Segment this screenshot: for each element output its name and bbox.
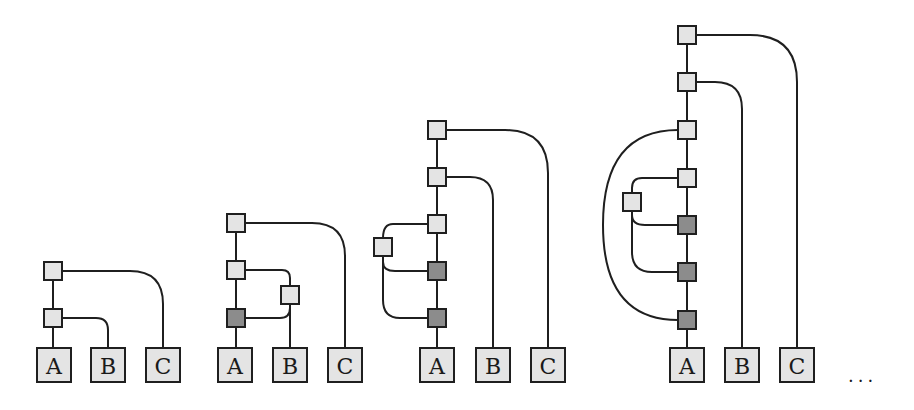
dark-node: [428, 309, 446, 327]
light-node: [227, 261, 245, 279]
dark-node: [428, 262, 446, 280]
leaf-label: B: [485, 354, 501, 379]
edge: [245, 270, 290, 348]
dark-node: [678, 216, 696, 234]
light-node: [374, 238, 392, 256]
light-node: [623, 193, 641, 211]
leaf-c: C: [146, 348, 180, 382]
light-node: [281, 286, 299, 304]
diagram-canvas: ABCABCABCABC: [0, 0, 914, 410]
leaf-label: A: [678, 354, 696, 379]
tree-diagram-1: ABC: [37, 262, 180, 382]
leaf-label: B: [100, 354, 116, 379]
leaf-b: B: [476, 348, 510, 382]
light-node: [44, 262, 62, 280]
light-node: [678, 121, 696, 139]
edge: [696, 82, 742, 348]
light-node: [678, 73, 696, 91]
leaf-b: B: [91, 348, 125, 382]
leaf-label: C: [337, 354, 354, 379]
tree-diagram-4: ABC: [603, 26, 814, 382]
edge: [632, 211, 678, 272]
edge: [62, 271, 163, 348]
leaf-a: A: [37, 348, 71, 382]
leaf-b: B: [725, 348, 759, 382]
dark-node: [227, 309, 245, 327]
leaf-a: A: [420, 348, 454, 382]
leaf-label: A: [428, 354, 446, 379]
light-node: [428, 215, 446, 233]
dark-node: [678, 311, 696, 329]
edge: [632, 178, 678, 193]
leaf-c: C: [328, 348, 362, 382]
leaf-label: C: [540, 354, 557, 379]
leaf-label: C: [155, 354, 172, 379]
leaf-label: B: [282, 354, 298, 379]
edge: [446, 130, 548, 348]
light-node: [44, 309, 62, 327]
dark-node: [678, 263, 696, 281]
leaf-a: A: [218, 348, 252, 382]
light-node: [678, 26, 696, 44]
light-node: [227, 214, 245, 232]
continuation-ellipsis: ...: [848, 365, 877, 386]
leaf-label: A: [45, 354, 63, 379]
leaf-a: A: [670, 348, 704, 382]
leaf-label: C: [789, 354, 806, 379]
edge: [383, 256, 428, 318]
edge: [632, 211, 678, 225]
edge: [245, 308, 290, 318]
light-node: [428, 168, 446, 186]
tree-diagram-2: ABC: [218, 214, 362, 382]
edge: [383, 256, 428, 271]
leaf-c: C: [780, 348, 814, 382]
tree-diagram-3: ABC: [374, 121, 565, 382]
leaf-label: B: [734, 354, 750, 379]
leaf-label: A: [226, 354, 244, 379]
edge: [62, 318, 108, 348]
leaf-b: B: [273, 348, 307, 382]
edge: [446, 177, 493, 348]
leaf-c: C: [531, 348, 565, 382]
light-node: [428, 121, 446, 139]
light-node: [678, 169, 696, 187]
edge: [383, 224, 428, 238]
